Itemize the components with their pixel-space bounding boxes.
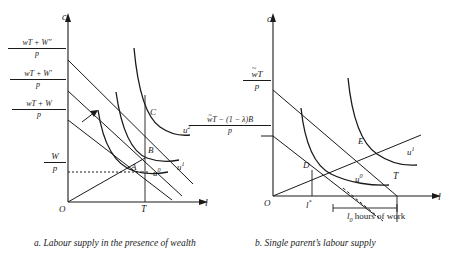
panel-b-y-axis-label: c <box>267 14 271 24</box>
panel-b-single-parent-labour-supply: c l O wT p wT − (1 − λ)B p D E u0 u1 T l… <box>231 0 461 267</box>
panel-b-curve-label-u1: u1 <box>407 146 415 157</box>
panel-a-ylabel-wT-plus-W2: wT + W″ p <box>8 39 66 59</box>
panel-b-curve-label-u0: u0 <box>355 173 363 184</box>
panel-b-ylabel-wT-over-p: wT p <box>243 70 271 92</box>
panel-b-x-tick-l-star: l* <box>306 199 312 210</box>
panel-a-origin-label: O <box>59 205 66 214</box>
panel-a-point-B: B <box>148 146 154 155</box>
panel-a-point-A: A <box>131 163 137 172</box>
panel-b-point-D: D <box>303 161 310 170</box>
panel-a-curve-label-u1: u1 <box>177 161 185 172</box>
panel-b-x-axis-label: l <box>438 192 441 202</box>
panel-a-ylabel-W-over-p: W p <box>44 152 66 174</box>
panel-a-curve-label-u0: u0 <box>153 167 161 178</box>
panel-a-ylabel-wT-plus-W1: wT + W′ p <box>10 70 66 90</box>
panel-a-ylabel-wT-plus-W: wT + W p <box>12 100 66 120</box>
shift-arrow-head <box>90 110 98 117</box>
panel-a-x-tick-T: T <box>141 205 146 215</box>
panel-a-y-axis-label: c <box>62 12 66 22</box>
figure-sheet: c l O T wT + W″ p wT + W′ p wT + W p W p… <box>0 0 461 267</box>
panel-b-origin-label: O <box>264 199 271 208</box>
panel-a-point-C: C <box>150 108 156 117</box>
indifference-curve-u0 <box>301 108 389 185</box>
indifference-curve-u2 <box>134 48 190 135</box>
budget-line-W1 <box>68 91 182 196</box>
panel-b-plot <box>231 0 461 230</box>
panel-b-x-tick-T: T <box>393 172 398 182</box>
panel-a-x-axis-label: l <box>205 198 208 208</box>
panel-b-point-E: E <box>358 137 364 146</box>
panel-b-hours-of-work-annotation: l0 hours of work <box>347 212 405 223</box>
wage-ray <box>273 135 421 196</box>
panel-a-caption: a. Labour supply in the presence of weal… <box>34 238 196 248</box>
panel-b-caption: b. Single parent’s labour supply <box>255 238 376 248</box>
panel-b-ylabel-wT-minus-benefit-over-p: wT − (1 − λ)B p <box>189 116 271 136</box>
budget-line-market <box>273 90 397 196</box>
